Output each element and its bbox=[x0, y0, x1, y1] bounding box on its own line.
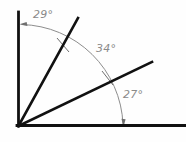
diagram-canvas bbox=[0, 0, 186, 142]
angle-sweep-arc bbox=[22, 25, 124, 125]
angle-label-34: 34° bbox=[96, 42, 116, 55]
angle-label-27: 27° bbox=[123, 88, 143, 101]
steep-ray bbox=[19, 18, 79, 126]
angle-label-29: 29° bbox=[33, 8, 53, 21]
angle-diagram: 29° 34° 27° bbox=[0, 0, 186, 142]
arc-start-arrowhead bbox=[20, 22, 28, 26]
